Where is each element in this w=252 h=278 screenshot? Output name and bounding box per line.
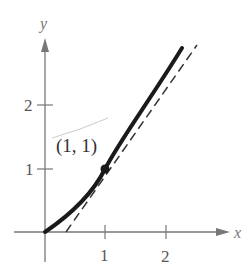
y-tick-label-2: 2 (24, 97, 33, 114)
point-marker (101, 165, 110, 174)
point-label: (1, 1) (56, 136, 97, 155)
y-axis-label: y (40, 16, 47, 32)
x-axis-arrow-icon (216, 228, 230, 236)
y-axis-arrow-icon (41, 38, 49, 52)
x-axis-label: x (234, 225, 241, 241)
graph-canvas (0, 0, 252, 278)
x-tick-label-1: 1 (100, 247, 109, 264)
y-tick-label-1: 1 (25, 161, 34, 178)
x-tick-label-2: 2 (161, 248, 170, 265)
